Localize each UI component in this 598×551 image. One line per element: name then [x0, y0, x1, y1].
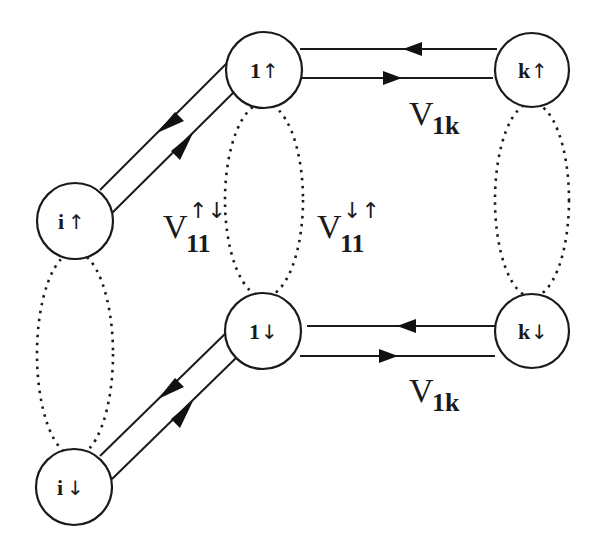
arrowhead-left-icon: [403, 42, 422, 56]
node-label: i: [57, 475, 63, 500]
label-main: V: [409, 372, 434, 409]
arrowhead-down-left-icon: [157, 112, 184, 133]
label-main: V: [409, 95, 434, 132]
node-1-down: 1 ↓: [225, 293, 301, 369]
edge-pair-1-down-k-down: [300, 319, 497, 363]
label-main: V: [163, 208, 188, 245]
spin-up-arrow-icon: ↑: [262, 59, 279, 83]
dotted-ellipse-k: [495, 103, 569, 297]
spin-up-arrow-icon: ↑: [68, 210, 85, 234]
label-v1k-bottom: V 1k: [409, 372, 460, 417]
arrowhead-up-right-icon: [171, 401, 193, 428]
spin-down-arrow-icon: ↓: [531, 320, 548, 344]
dotted-ellipse-1: [225, 103, 303, 297]
label-subscript: 1k: [432, 111, 460, 140]
arrowhead-right-icon: [379, 349, 398, 363]
label-v11-downup: V 11 ↓↑: [317, 198, 380, 258]
spin-down-arrow-icon: ↓: [67, 476, 84, 500]
label-superscript: ↑↓: [189, 198, 226, 223]
node-1-up: 1 ↑: [226, 32, 302, 108]
arrowhead-down-left-icon: [158, 378, 184, 399]
node-i-down: i ↓: [36, 449, 112, 525]
arrowhead-right-icon: [383, 71, 402, 85]
edge-pair-1-up-k-up: [300, 42, 497, 85]
spin-down-arrow-icon: ↓: [261, 320, 278, 344]
node-k-down: k ↓: [495, 294, 569, 368]
label-superscript: ↓↑: [343, 198, 380, 223]
label-v1k-top: V 1k: [409, 95, 460, 140]
node-label: i: [58, 209, 64, 234]
node-label: 1: [250, 58, 261, 83]
edge-pair-i-up-1-up: [100, 61, 236, 213]
node-label: 1: [249, 319, 260, 344]
spin-up-arrow-icon: ↑: [531, 59, 548, 83]
dotted-ellipse-i: [37, 252, 113, 456]
node-i-up: i ↑: [37, 183, 113, 259]
arrowhead-up-right-icon: [171, 133, 193, 160]
label-main: V: [317, 208, 342, 245]
label-subscript: 11: [340, 229, 365, 258]
spin-interaction-diagram: i ↑ i ↓ 1 ↑ 1 ↓ k ↑ k ↓ V 11 ↑↓ V 11 ↓↑ …: [0, 0, 598, 551]
edge-pair-i-down-1-down: [100, 330, 236, 479]
label-subscript: 1k: [432, 388, 460, 417]
label-v11-updown: V 11 ↑↓: [163, 198, 226, 258]
label-subscript: 11: [186, 229, 211, 258]
arrowhead-left-icon: [397, 319, 416, 333]
node-k-up: k ↑: [495, 33, 569, 107]
node-label: k: [518, 319, 531, 344]
node-label: k: [518, 58, 531, 83]
